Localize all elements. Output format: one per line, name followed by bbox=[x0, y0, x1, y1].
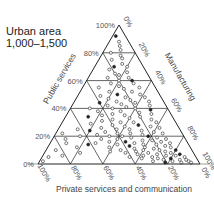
data-point bbox=[150, 118, 153, 121]
data-point bbox=[47, 156, 50, 159]
data-point bbox=[128, 156, 131, 159]
tick-label: 20% bbox=[137, 41, 152, 59]
data-point bbox=[169, 142, 172, 145]
data-point bbox=[121, 57, 124, 60]
data-point bbox=[118, 74, 121, 77]
data-point bbox=[169, 157, 172, 160]
axis-label-manufacturing: Manufacturing bbox=[163, 51, 199, 103]
tick-label: 100% bbox=[35, 162, 53, 183]
data-point bbox=[108, 146, 111, 149]
data-point bbox=[110, 58, 113, 61]
data-point bbox=[141, 133, 144, 136]
data-point bbox=[149, 108, 152, 111]
data-point bbox=[126, 71, 129, 74]
data-point bbox=[120, 103, 123, 106]
data-point bbox=[100, 126, 103, 129]
data-point bbox=[119, 49, 122, 52]
tick-label: 80% bbox=[84, 49, 99, 58]
data-point bbox=[88, 107, 91, 110]
data-point bbox=[128, 117, 131, 120]
data-point bbox=[65, 142, 68, 145]
data-point bbox=[160, 140, 163, 143]
data-point bbox=[164, 144, 167, 147]
data-point bbox=[109, 150, 112, 153]
tick-label: 80% bbox=[69, 164, 84, 182]
data-point bbox=[134, 107, 137, 110]
data-point bbox=[79, 135, 82, 138]
tick-label: 40% bbox=[134, 164, 149, 182]
data-point bbox=[132, 82, 135, 85]
data-point bbox=[64, 138, 67, 141]
data-point bbox=[131, 90, 134, 93]
data-point bbox=[123, 114, 126, 117]
data-point bbox=[149, 125, 152, 128]
data-point bbox=[183, 156, 186, 159]
data-point bbox=[119, 54, 122, 57]
data-point bbox=[87, 143, 90, 146]
data-point bbox=[114, 35, 117, 38]
data-point bbox=[129, 99, 132, 102]
axis-label-private-services: Private services and communication bbox=[56, 184, 192, 194]
data-point bbox=[113, 65, 116, 68]
data-point bbox=[126, 65, 129, 68]
data-point bbox=[108, 135, 111, 138]
data-point bbox=[133, 147, 136, 150]
data-point bbox=[158, 126, 161, 129]
data-point bbox=[101, 114, 104, 117]
tick-label: 100% bbox=[96, 21, 116, 30]
data-point bbox=[174, 149, 177, 152]
data-point bbox=[147, 151, 150, 154]
data-point bbox=[130, 136, 133, 139]
data-point bbox=[151, 139, 154, 142]
data-point bbox=[158, 149, 161, 152]
data-point bbox=[107, 97, 110, 100]
data-point bbox=[94, 142, 97, 145]
data-point bbox=[152, 160, 155, 163]
data-point bbox=[118, 79, 121, 82]
data-point bbox=[137, 124, 140, 127]
data-point bbox=[98, 101, 101, 104]
data-point bbox=[116, 93, 119, 96]
data-point bbox=[121, 62, 124, 65]
data-point bbox=[108, 68, 111, 71]
data-point bbox=[134, 101, 137, 104]
data-point bbox=[116, 138, 119, 141]
data-point bbox=[87, 115, 90, 118]
data-point bbox=[122, 87, 125, 90]
data-point bbox=[128, 144, 131, 147]
data-point bbox=[109, 51, 112, 54]
data-point bbox=[131, 79, 134, 82]
data-point bbox=[142, 149, 145, 152]
data-point bbox=[119, 149, 122, 152]
data-point bbox=[156, 153, 159, 156]
data-point bbox=[109, 82, 112, 85]
data-point bbox=[118, 40, 121, 43]
data-point bbox=[79, 151, 82, 154]
data-point bbox=[124, 151, 127, 154]
data-point bbox=[115, 128, 118, 131]
data-point bbox=[162, 158, 165, 161]
data-point bbox=[169, 146, 172, 149]
data-point bbox=[169, 151, 172, 154]
data-point bbox=[140, 129, 143, 132]
data-point bbox=[135, 150, 138, 153]
ternary-chart: 0%20%40%60%80%100%0%20%40%60%80%100%100%… bbox=[0, 0, 214, 197]
data-point bbox=[106, 76, 109, 79]
data-point bbox=[99, 94, 102, 97]
data-point bbox=[108, 140, 111, 143]
data-point bbox=[128, 128, 131, 131]
tick-label: 40% bbox=[51, 104, 66, 113]
tick-label: 80% bbox=[185, 124, 200, 142]
data-point bbox=[143, 146, 146, 149]
data-point bbox=[151, 156, 154, 159]
data-point bbox=[165, 154, 168, 157]
data-point bbox=[156, 136, 159, 139]
data-point bbox=[140, 157, 143, 160]
data-point bbox=[61, 154, 64, 157]
tick-label: 20% bbox=[166, 164, 181, 182]
data-point bbox=[124, 96, 127, 99]
data-point bbox=[114, 72, 117, 75]
data-point bbox=[155, 143, 158, 146]
data-point bbox=[138, 86, 141, 89]
data-point bbox=[104, 131, 107, 134]
